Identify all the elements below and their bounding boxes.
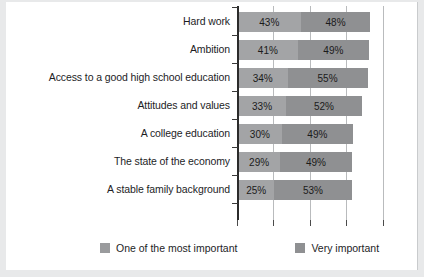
bar-segment[interactable]: 43% <box>238 12 301 32</box>
bar-segment[interactable]: 48% <box>301 12 371 32</box>
bar-row: Attitudes and values33%52% <box>6 92 418 120</box>
value-tick-25 <box>273 220 274 226</box>
legend-label-series-0: One of the most important <box>116 242 237 254</box>
bar-track: 43%48% <box>237 8 410 36</box>
chart-legend: One of the most important Very important <box>6 242 418 254</box>
category-tick-6 <box>232 175 238 176</box>
stacked-bar[interactable]: 43%48% <box>238 12 370 32</box>
stacked-bar[interactable]: 29%49% <box>238 152 352 172</box>
bar-segment[interactable]: 55% <box>288 68 368 88</box>
value-tick-75 <box>346 220 347 226</box>
bar-segment[interactable]: 25% <box>238 180 274 200</box>
category-tick-2 <box>232 63 238 64</box>
category-tick-1 <box>232 35 238 36</box>
bar-segment[interactable]: 49% <box>282 124 353 144</box>
stacked-bar[interactable]: 33%52% <box>238 96 362 116</box>
stacked-bar[interactable]: 34%55% <box>238 68 368 88</box>
bar-row: Access to a good high school education34… <box>6 64 418 92</box>
bar-rows: Hard work43%48%Ambition41%49%Access to a… <box>6 8 418 204</box>
bar-track: 41%49% <box>237 36 410 64</box>
stacked-bar[interactable]: 41%49% <box>238 40 369 60</box>
bar-segment[interactable]: 30% <box>238 124 282 144</box>
bar-track: 33%52% <box>237 92 410 120</box>
value-tick-50 <box>310 220 311 226</box>
bar-row: The state of the economy29%49% <box>6 148 418 176</box>
plot-area: Hard work43%48%Ambition41%49%Access to a… <box>6 2 418 227</box>
category-tick-7 <box>232 203 238 204</box>
category-label: Ambition <box>6 44 237 55</box>
legend-label-series-1: Very important <box>311 242 379 254</box>
category-label: Hard work <box>6 16 237 27</box>
bar-segment[interactable]: 29% <box>238 152 280 172</box>
bar-track: 25%53% <box>237 176 410 204</box>
bar-track: 34%55% <box>237 64 410 92</box>
bar-segment[interactable]: 49% <box>280 152 351 172</box>
bar-segment[interactable]: 41% <box>238 40 298 60</box>
bar-row: A stable family background25%53% <box>6 176 418 204</box>
category-tick-5 <box>232 147 238 148</box>
legend-swatch-icon-series-0 <box>100 243 110 253</box>
gridline-100 <box>383 6 384 220</box>
bar-segment[interactable]: 33% <box>238 96 286 116</box>
bar-track: 29%49% <box>237 148 410 176</box>
chart-card: Hard work43%48%Ambition41%49%Access to a… <box>6 2 418 270</box>
category-label: A stable family background <box>6 184 237 195</box>
bar-segment[interactable]: 49% <box>298 40 369 60</box>
value-axis-spine <box>237 6 239 220</box>
legend-swatch-icon-series-1 <box>295 243 305 253</box>
bar-row: Hard work43%48% <box>6 8 418 36</box>
value-tick-100 <box>383 220 384 226</box>
bar-row: A college education30%49% <box>6 120 418 148</box>
stacked-bar[interactable]: 30%49% <box>238 124 353 144</box>
category-label: The state of the economy <box>6 156 237 167</box>
category-label: Access to a good high school education <box>6 72 237 83</box>
legend-item-very-important[interactable]: Very important <box>295 242 379 254</box>
bar-track: 30%49% <box>237 120 410 148</box>
bar-row: Ambition41%49% <box>6 36 418 64</box>
stacked-bar[interactable]: 25%53% <box>238 180 352 200</box>
page-footer-strip <box>0 270 424 277</box>
bar-segment[interactable]: 34% <box>238 68 288 88</box>
value-tick-0 <box>237 220 238 226</box>
category-tick-0 <box>232 7 238 8</box>
bar-segment[interactable]: 53% <box>274 180 351 200</box>
category-tick-3 <box>232 91 238 92</box>
category-label: A college education <box>6 128 237 139</box>
category-tick-4 <box>232 119 238 120</box>
category-label: Attitudes and values <box>6 100 237 111</box>
legend-item-one-of-the-most-important[interactable]: One of the most important <box>100 242 237 254</box>
bar-segment[interactable]: 52% <box>286 96 362 116</box>
